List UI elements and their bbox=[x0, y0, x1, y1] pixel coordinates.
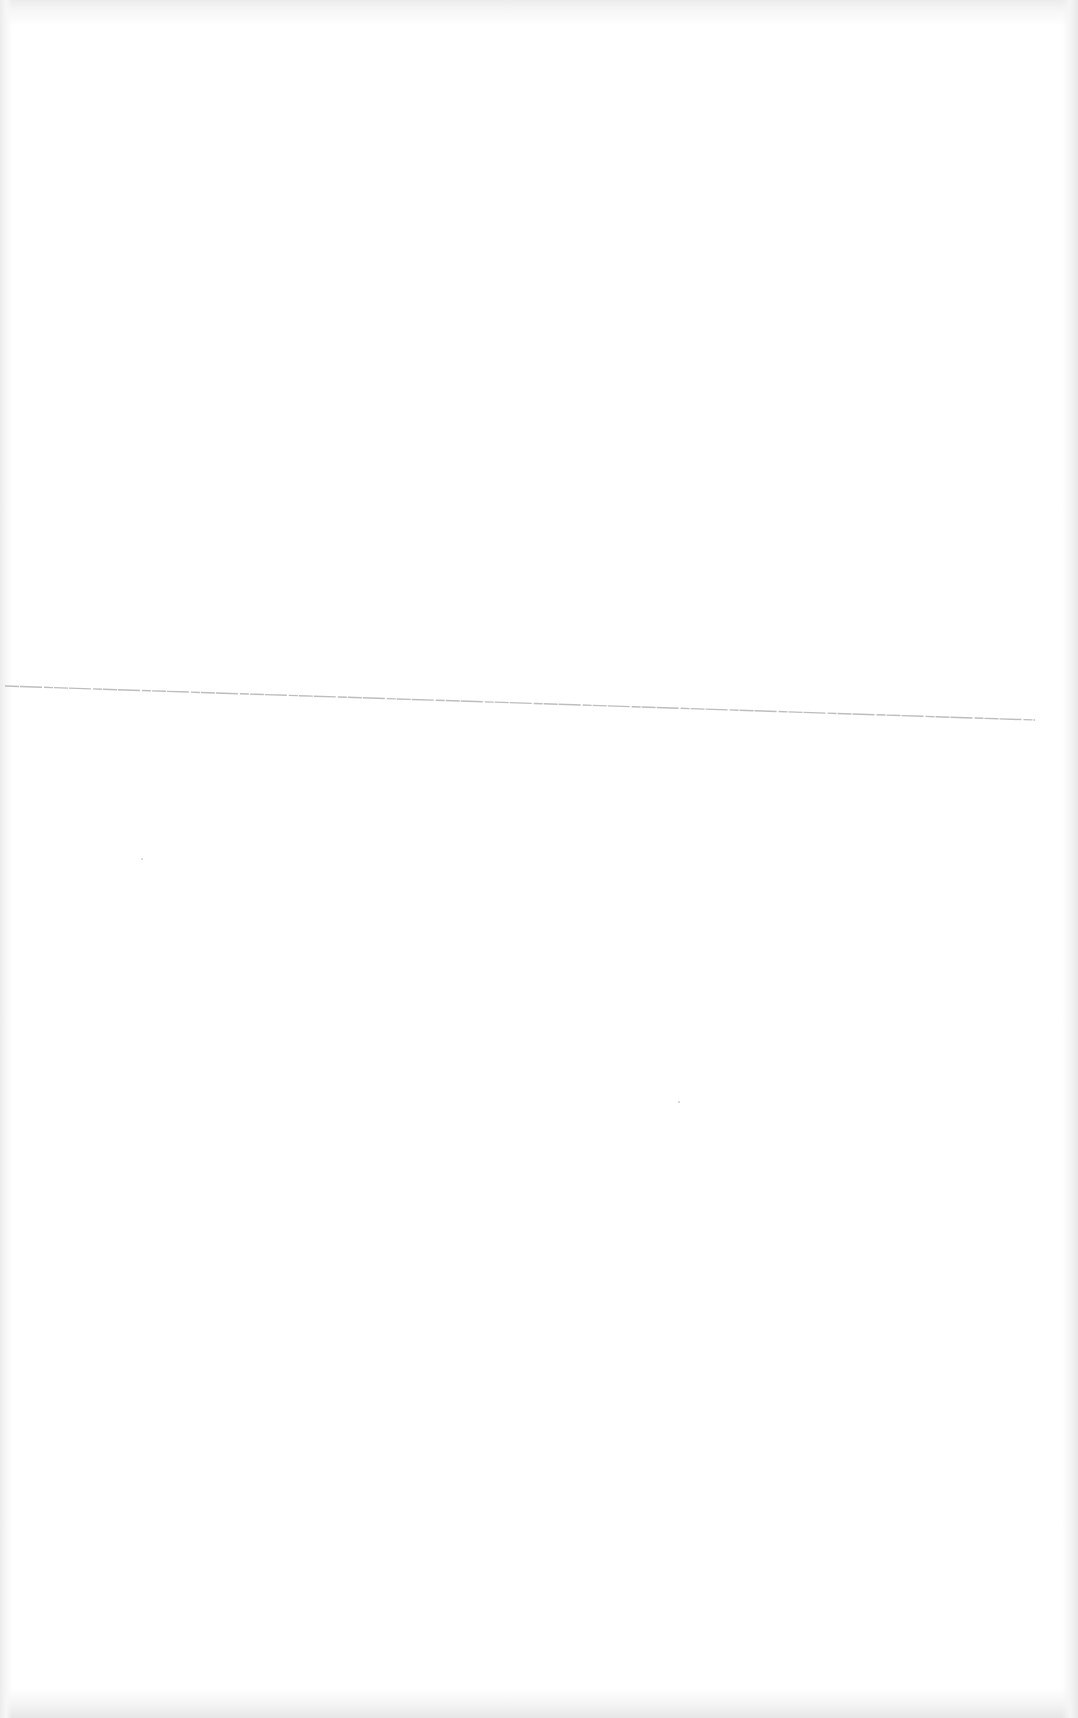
scan-speck bbox=[678, 1101, 680, 1103]
horizontal-rule bbox=[0, 0, 1078, 1718]
horizontal-rule-line bbox=[5, 686, 1035, 720]
scan-speck bbox=[141, 858, 143, 860]
document-page bbox=[0, 0, 1078, 1718]
scan-edge-right bbox=[1062, 0, 1078, 1718]
scan-edge-bottom bbox=[0, 1688, 1078, 1718]
scan-edge-left bbox=[0, 0, 12, 1718]
scan-edge-top bbox=[0, 0, 1078, 26]
